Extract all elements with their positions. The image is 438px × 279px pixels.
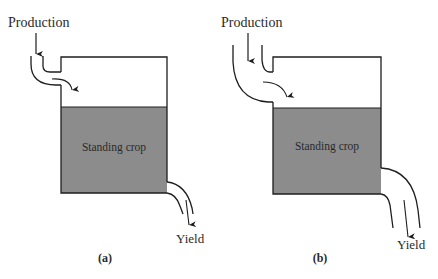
inlet-pipe-inner: [43, 56, 61, 72]
figure-canvas: Production Standing crop Yield (a) Produ…: [0, 0, 438, 279]
panel-a: Production Standing crop Yield (a): [8, 15, 205, 265]
panel-caption: (b): [313, 251, 328, 265]
standing-crop-label: Standing crop: [82, 141, 146, 154]
panel-caption: (a): [98, 251, 112, 265]
inflow-arrow-icon: [263, 82, 287, 97]
outlet-pipe-inner: [381, 194, 393, 228]
inlet-pipe-inner: [262, 45, 273, 72]
inlet-pipe-outer: [31, 56, 61, 85]
yield-label: Yield: [397, 237, 426, 252]
yield-arrow-icon: [186, 200, 189, 225]
production-label: Production: [221, 15, 282, 30]
outlet-pipe-inner: [167, 193, 183, 214]
yield-label: Yield: [176, 231, 205, 246]
yield-arrow-icon: [404, 200, 408, 237]
inlet-pipe-outer: [233, 45, 273, 102]
outlet-pipe-outer: [167, 182, 193, 214]
production-label: Production: [8, 15, 69, 30]
standing-crop-label: Standing crop: [295, 140, 359, 153]
panel-b: Production Standing crop Yield (b): [221, 15, 426, 265]
